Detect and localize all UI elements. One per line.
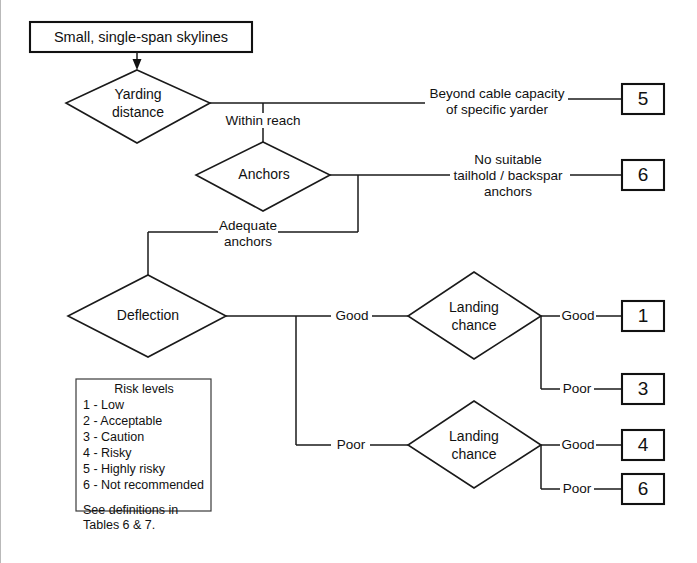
legend-note: See definitions in Tables 6 & 7. [83, 503, 213, 533]
decision-deflection-label: Deflection [117, 307, 179, 323]
edge-start-to-yarding [133, 52, 142, 70]
edge-label-landing-upper-poor: Poor [563, 381, 592, 396]
decision-deflection: Deflection [68, 275, 226, 357]
edge-label-no-suitable-line1: No suitable [474, 152, 542, 167]
decision-landing-chance-upper: Landing chance [408, 272, 541, 359]
edge-label-within-reach: Within reach [225, 113, 300, 128]
legend-title: Risk levels [114, 382, 174, 396]
edge-label-no-suitable-line3: anchors [484, 184, 532, 199]
edge-label-landing-lower-poor: Poor [563, 481, 592, 496]
result-6-landing: 6 [622, 474, 664, 504]
flowchart-diagram: Small, single-span skylines Yarding dist… [0, 0, 697, 563]
start-node: Small, single-span skylines [30, 22, 252, 52]
decision-yarding-distance: Yarding distance [66, 70, 210, 143]
edge-deflection-branches [226, 316, 408, 445]
edge-label-deflection-poor: Poor [337, 437, 366, 452]
edge-label-landing-lower-good: Good [561, 437, 594, 452]
legend-item-3: 3 - Caution [83, 430, 144, 444]
legend-item-6: 6 - Not recommended [83, 478, 204, 492]
result-6-anchors-value: 6 [638, 164, 649, 185]
edge-label-adequate-anchors-line1: Adequate [219, 218, 277, 233]
edge-landing-upper-branches [541, 316, 622, 389]
result-3: 3 [622, 374, 664, 404]
edge-label-deflection-good: Good [335, 308, 368, 323]
legend-item-2: 2 - Acceptable [83, 414, 162, 428]
result-1-value: 1 [638, 305, 649, 326]
result-6-landing-value: 6 [638, 478, 649, 499]
result-3-value: 3 [638, 378, 649, 399]
decision-yarding-distance-label-line2: distance [112, 104, 164, 120]
legend-item-5: 5 - Highly risky [83, 462, 166, 476]
start-node-label: Small, single-span skylines [54, 29, 228, 45]
decision-anchors: Anchors [196, 142, 330, 211]
edge-label-adequate-anchors-line2: anchors [224, 234, 272, 249]
decision-landing-chance-lower-label-line2: chance [451, 446, 496, 462]
edge-label-beyond-capacity-line1: Beyond cable capacity [429, 86, 564, 101]
decision-landing-chance-upper-shape [408, 272, 541, 359]
result-5-yarding-value: 5 [638, 88, 649, 109]
result-6-anchors: 6 [622, 160, 664, 190]
decision-landing-chance-lower-label-line1: Landing [449, 428, 499, 444]
decision-anchors-label: Anchors [238, 166, 289, 182]
legend-item-4: 4 - Risky [83, 446, 132, 460]
legend: Risk levels 1 - Low 2 - Acceptable 3 - C… [76, 379, 211, 511]
decision-landing-chance-upper-label-line2: chance [451, 317, 496, 333]
decision-yarding-distance-label-line1: Yarding [114, 86, 161, 102]
legend-note-line1: See definitions in [83, 503, 213, 518]
result-5-yarding: 5 [622, 84, 664, 114]
result-4: 4 [622, 430, 664, 460]
legend-item-1: 1 - Low [83, 398, 125, 412]
decision-landing-chance-lower-shape [408, 401, 541, 488]
edge-label-no-suitable-line2: tailhold / backspar [454, 168, 563, 183]
edge-label-landing-upper-good: Good [561, 308, 594, 323]
edge-label-beyond-capacity-line2: of specific yarder [446, 102, 549, 117]
arrowhead-icon [133, 59, 142, 70]
legend-note-line2: Tables 6 & 7. [83, 518, 213, 533]
decision-landing-chance-upper-label-line1: Landing [449, 299, 499, 315]
decision-landing-chance-lower: Landing chance [408, 401, 541, 488]
result-1: 1 [622, 301, 664, 331]
result-4-value: 4 [638, 434, 649, 455]
